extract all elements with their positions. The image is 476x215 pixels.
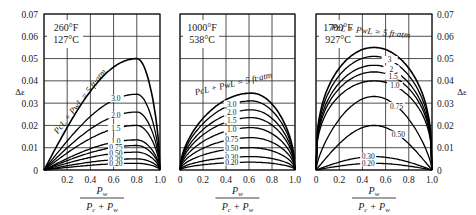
svg-text:Pc + Pw: Pc + Pw bbox=[357, 201, 390, 214]
curve-label: 3.0 bbox=[111, 94, 121, 103]
y-tick-label: 0.07 bbox=[437, 10, 454, 20]
svg-text:Pw: Pw bbox=[231, 185, 243, 198]
curve-label: 0.20 bbox=[225, 158, 238, 167]
temperature-celsius: 538°C bbox=[189, 34, 215, 45]
curve-label: 1.0 bbox=[227, 125, 237, 134]
x-tick-label: 0.4 bbox=[356, 175, 368, 185]
x-tick-label: 1.0 bbox=[154, 175, 166, 185]
x-tick-label: 0.8 bbox=[266, 175, 278, 185]
temperature-celsius: 127°C bbox=[53, 34, 79, 45]
y-tick-label: 0 bbox=[33, 166, 38, 176]
svg-text:Pw: Pw bbox=[96, 185, 108, 198]
curve-label: 1.5 bbox=[388, 72, 398, 81]
curve-label: 0.20 bbox=[362, 159, 375, 168]
x-tick-label: 0 bbox=[314, 175, 319, 185]
x-tick-label: 0.4 bbox=[84, 175, 96, 185]
x-tick-label: 1.0 bbox=[426, 175, 438, 185]
y-axis-label: Δε bbox=[457, 87, 467, 97]
y-tick-label: 0.05 bbox=[21, 54, 38, 64]
temperature-celsius: 927°C bbox=[325, 34, 351, 45]
y-tick-label: 0.06 bbox=[21, 32, 38, 42]
svg-text:Pw: Pw bbox=[368, 185, 380, 198]
y-tick-label: 0.05 bbox=[437, 54, 454, 64]
x-tick-label: 0.2 bbox=[61, 175, 73, 185]
curve-label: 1.5 bbox=[227, 116, 237, 125]
temperature-fahrenheit: 260°F bbox=[54, 22, 79, 33]
x-tick-label: 0.4 bbox=[220, 175, 232, 185]
x-tick-label: 0.6 bbox=[380, 175, 392, 185]
x-tick-label: 0.8 bbox=[403, 175, 415, 185]
y-tick-label: 0.03 bbox=[437, 99, 454, 109]
panel-2: 00.20.40.60.81.01000°F538°C3.02.01.51.00… bbox=[178, 14, 302, 214]
curve-family-label: PcL + PwL = 5 ft·atm bbox=[51, 67, 109, 137]
y-tick-label: 0.03 bbox=[21, 99, 38, 109]
svg-text:Pc + Pw: Pc + Pw bbox=[221, 201, 254, 214]
curve-label: 0.75 bbox=[225, 135, 238, 144]
y-tick-label: 0.01 bbox=[437, 143, 454, 153]
temperature-fahrenheit: 1000°F bbox=[187, 22, 217, 33]
y-tick-label: 0.01 bbox=[21, 143, 38, 153]
chart-canvas: 0.20.40.60.81.000.010.020.030.040.050.06… bbox=[0, 0, 476, 215]
x-tick-label: 0.2 bbox=[333, 175, 345, 185]
panel-3: 00.20.40.60.81.000.010.020.030.040.050.0… bbox=[314, 10, 467, 215]
x-tick-label: 0.2 bbox=[197, 175, 209, 185]
y-axis-label: Δε bbox=[15, 87, 25, 97]
curve-family-label: PcL + PwL = 5 ft·atm bbox=[193, 70, 274, 98]
emissivity-correction-chart: 0.20.40.60.81.000.010.020.030.040.050.06… bbox=[0, 0, 476, 215]
x-tick-label: 0.6 bbox=[243, 175, 255, 185]
x-tick-label: 1.0 bbox=[289, 175, 301, 185]
x-tick-label: 0 bbox=[178, 175, 183, 185]
y-tick-label: 0.06 bbox=[437, 32, 454, 42]
x-axis-label: PwPc + Pw bbox=[80, 185, 124, 214]
x-tick-label: 0.6 bbox=[108, 175, 120, 185]
x-axis-label: PwPc + Pw bbox=[352, 185, 396, 214]
panel-1: 0.20.40.60.81.000.010.020.030.040.050.06… bbox=[15, 10, 166, 215]
y-tick-label: 0.02 bbox=[21, 121, 38, 131]
curve-label: 3 bbox=[388, 55, 392, 64]
x-axis-label: PwPc + Pw bbox=[216, 185, 260, 214]
y-tick-label: 0.04 bbox=[437, 76, 454, 86]
curve-label: 0.50 bbox=[392, 130, 405, 139]
curve-label: 0.75 bbox=[390, 102, 403, 111]
y-tick-label: 0.04 bbox=[21, 76, 38, 86]
y-tick-label: 0.02 bbox=[437, 121, 454, 131]
curve-label: 1.5 bbox=[111, 124, 121, 133]
curve-label: 2.0 bbox=[111, 111, 121, 120]
y-tick-label: 0.07 bbox=[21, 10, 38, 20]
y-tick-label: 0 bbox=[437, 166, 442, 176]
curve-label: 0.20 bbox=[109, 159, 122, 168]
x-tick-label: 0.8 bbox=[131, 175, 143, 185]
curve-label: 1.0 bbox=[390, 81, 400, 90]
svg-text:Pc + Pw: Pc + Pw bbox=[85, 201, 118, 214]
